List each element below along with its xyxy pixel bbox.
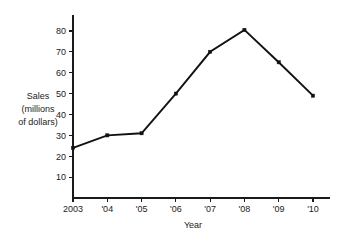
x-tick-label: '10 — [307, 204, 319, 214]
x-tick-label: '06 — [170, 204, 182, 214]
y-tick-label: 60 — [56, 68, 66, 78]
line-chart: 1020304050607080 2003'04'05'06'07'08'09'… — [0, 0, 340, 239]
y-tick-label: 70 — [56, 47, 66, 57]
y-axis-title-line-3: of dollars) — [18, 117, 58, 127]
data-point-marker — [243, 28, 246, 31]
data-point-marker — [106, 134, 109, 137]
chart-canvas: 1020304050607080 2003'04'05'06'07'08'09'… — [0, 0, 340, 239]
y-axis-title-line-2: (millions — [21, 104, 55, 114]
x-tick-label: '09 — [273, 204, 285, 214]
x-tick-label: '08 — [239, 204, 251, 214]
y-tick-label: 10 — [56, 172, 66, 182]
x-tick-label: '05 — [136, 204, 148, 214]
x-tick-label: 2003 — [63, 204, 83, 214]
data-point-marker — [311, 94, 314, 97]
y-tick-label: 30 — [56, 131, 66, 141]
x-tick-label: '07 — [204, 204, 216, 214]
x-axis-title: Year — [184, 220, 202, 230]
data-point-marker — [71, 146, 74, 149]
data-point-marker — [174, 92, 177, 95]
data-point-marker — [209, 50, 212, 53]
y-tick-label: 80 — [56, 26, 66, 36]
x-tick-label: '04 — [101, 204, 113, 214]
data-point-marker — [277, 61, 280, 64]
y-axis-title-line-1: Sales — [27, 91, 50, 101]
y-tick-label: 20 — [56, 152, 66, 162]
data-point-marker — [140, 132, 143, 135]
y-tick-label: 50 — [56, 89, 66, 99]
